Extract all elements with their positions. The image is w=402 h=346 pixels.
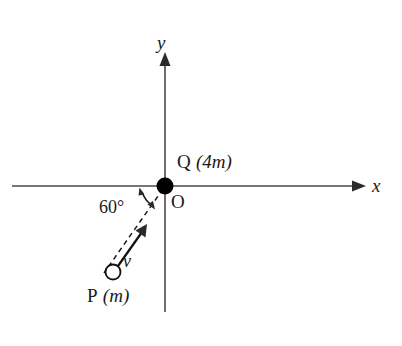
velocity-label: v [123,252,131,270]
mass-q-label: Q (4m) [177,152,232,171]
mass-q-name: Q [177,151,191,172]
y-axis-arrowhead-icon [160,52,171,66]
mass-p-label: P (m) [87,286,129,305]
x-axis-label: x [372,176,380,195]
origin-label: O [171,192,185,211]
mass-q-mass: (4m) [196,151,232,172]
angle-arc-arrowhead-upper-icon [139,188,145,196]
y-axis-label: y [157,33,165,52]
diagram-svg [0,0,402,346]
x-axis-arrowhead-icon [352,181,366,192]
physics-diagram-canvas: y x O Q (4m) P (m) v 60° [0,0,402,346]
mass-p-name: P [87,285,98,306]
mass-p-marker [106,265,121,280]
angle-label: 60° [99,198,124,216]
mass-p-mass: (m) [103,285,129,306]
